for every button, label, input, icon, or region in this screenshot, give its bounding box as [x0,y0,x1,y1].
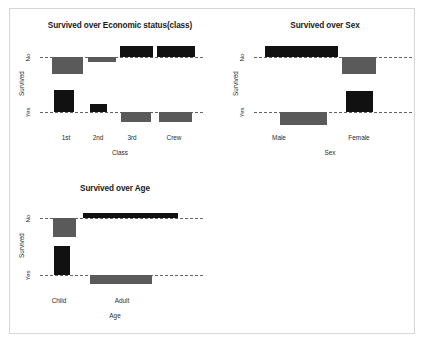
panel-class-bar-no-crew [157,46,195,57]
panel-sex-bar-no-male [265,46,338,57]
panel-age-plot-area [40,202,205,294]
panel-sex-ytick-yes: Yes [238,104,245,122]
panel-sex-bar-yes-male [280,112,327,125]
panel-sex-bar-no-female [342,57,376,74]
panel-sex-xtick-male: Male [259,134,299,141]
panel-sex-plot-area [254,40,414,130]
panel-age-y-axis-label: Survived [18,223,25,269]
panel-sex: Survived over Sex Survived No Yes Male F… [215,0,424,170]
panel-class-bar-yes-2nd [90,104,107,112]
panel-class-bar-yes-3rd [121,112,151,122]
mosaic-plot-figure: Survived over Economic status(class) Sur… [0,0,424,342]
panel-sex-refline-yes [254,112,412,113]
panel-class-bar-yes-crew [159,112,192,122]
panel-class-xtick-3rd: 3rd [116,134,148,141]
panel-class-xtick-crew: Crew [157,134,191,141]
panel-age-xtick-child: Child [41,297,77,304]
panel-class-bar-no-1st [52,57,83,74]
panel-age-ytick-yes: Yes [24,267,31,285]
panel-sex-ytick-no: No [238,50,245,66]
panel-class-bar-no-3rd [120,46,153,57]
panel-age-bar-yes-child [54,246,70,275]
panel-sex-y-axis-label: Survived [232,61,239,107]
panel-sex-x-axis-label: Sex [315,149,345,156]
panel-sex-bar-yes-female [346,91,373,112]
panel-class-bar-no-2nd [88,57,116,62]
panel-age: Survived over Age Survived No Yes Child … [0,170,215,335]
panel-age-title: Survived over Age [55,184,175,193]
panel-class-x-axis-label: Class [100,149,140,156]
panel-age-bar-no-adult [83,213,178,218]
panel-class: Survived over Economic status(class) Sur… [0,0,215,170]
panel-class-y-axis-label: Survived [18,61,25,107]
panel-age-ytick-no: No [24,211,31,227]
panel-class-ytick-yes: Yes [24,104,31,122]
panel-class-xtick-2nd: 2nd [82,134,114,141]
panel-age-x-axis-label: Age [100,312,130,319]
panel-sex-xtick-female: Female [337,134,381,141]
panel-class-xtick-1st: 1st [50,134,82,141]
panel-sex-refline-no [254,57,412,58]
panel-class-bar-yes-1st [54,90,74,112]
panel-age-bar-no-child [53,218,76,237]
panel-sex-title: Survived over Sex [265,21,385,30]
panel-class-ytick-no: No [24,50,31,66]
panel-age-xtick-adult: Adult [104,297,140,304]
panel-class-title: Survived over Economic status(class) [35,21,205,30]
panel-age-bar-yes-adult [90,275,152,284]
panel-class-plot-area [40,40,205,130]
